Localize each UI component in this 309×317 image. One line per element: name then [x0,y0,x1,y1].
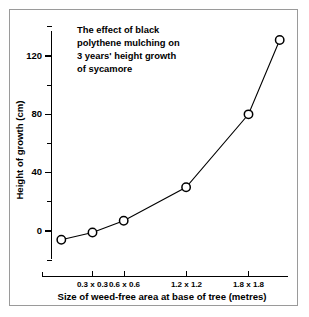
x-tick-label-1: 0.6 x 0.6 [109,280,141,289]
annotation-line-2: polythene mulching on [77,37,180,48]
x-tick-label-0: 0.3 x 0.3 [77,280,109,289]
data-point [276,36,284,44]
annotation-line-3: 3 years' height growth [77,50,176,61]
x-tick-label-2: 1.2 x 1.2 [171,280,203,289]
x-axis-ticks [93,271,249,277]
x-tick-label-3: 1.8 x 1.8 [233,280,265,289]
chart-plot: 120 80 40 0 Height of growth (cm) 0.3 x … [10,10,297,305]
annotation-line-4: of sycamore [77,63,132,74]
y-axis-title: Height of growth (cm) [14,100,25,199]
data-point [88,228,96,236]
y-axis-minor-ticks [47,27,52,260]
y-tick-label-40: 40 [31,166,42,177]
y-tick-label-0: 0 [37,225,42,236]
y-tick-label-80: 80 [31,108,42,119]
figure-frame: 120 80 40 0 Height of growth (cm) 0.3 x … [9,9,298,306]
data-point [182,183,190,191]
y-tick-label-120: 120 [26,50,42,61]
x-axis-title: Size of weed-free area at base of tree (… [57,291,266,302]
data-point [120,217,128,225]
annotation-line-1: The effect of black [77,24,160,35]
data-point [57,236,65,244]
chart-annotation: The effect of black polythene mulching o… [77,24,180,74]
data-point [244,110,252,118]
